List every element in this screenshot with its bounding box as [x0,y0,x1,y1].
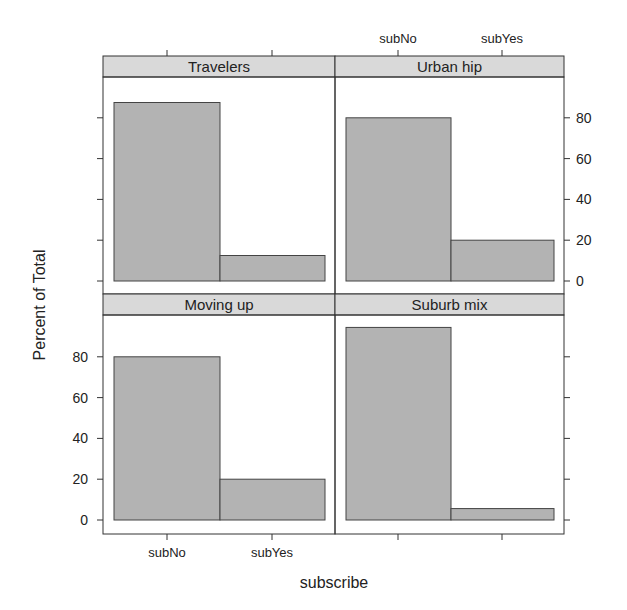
bar-subYes [451,509,554,520]
y-tick-label: 0 [576,273,584,289]
panel-title: Urban hip [417,58,482,75]
bar-subYes [451,240,554,281]
y-tick-label: 40 [576,191,592,207]
lattice-bar-chart: TravelersUrban hipMoving upSuburb mix 02… [0,0,627,610]
x-tick-label: subNo [148,545,186,560]
panel-suburb-mix: Suburb mix [335,294,564,534]
bar-subYes [220,479,325,520]
panel-moving-up: Moving up [103,294,335,534]
bar-subNo [346,327,451,520]
x-axis-label: subscribe [300,574,369,591]
y-tick-label: 60 [576,151,592,167]
panel-title: Moving up [184,296,253,313]
panel-title: Suburb mix [412,296,488,313]
y-tick-label: 60 [72,390,88,406]
y-axis-label: Percent of Total [31,250,48,361]
x-tick-label: subYes [481,31,524,46]
bar-subNo [346,118,451,281]
y-tick-label: 0 [80,512,88,528]
y-tick-label: 80 [576,110,592,126]
panel-title: Travelers [188,58,250,75]
panel-urban-hip: Urban hip [335,56,564,294]
y-tick-label: 20 [576,232,592,248]
bar-subNo [114,103,220,282]
bar-subNo [114,357,220,520]
panel-travelers: Travelers [103,56,335,294]
panels: TravelersUrban hipMoving upSuburb mix [103,56,564,534]
bar-subYes [220,256,325,282]
y-tick-label: 20 [72,471,88,487]
x-tick-label: subNo [379,31,417,46]
x-tick-label: subYes [251,545,294,560]
y-tick-label: 80 [72,349,88,365]
y-tick-label: 40 [72,430,88,446]
